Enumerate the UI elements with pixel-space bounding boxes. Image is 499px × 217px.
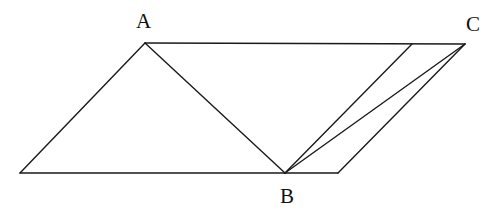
segment-a-c	[145, 43, 465, 44]
point-label-c: C	[466, 12, 480, 36]
segment-b-top-inner	[285, 44, 412, 173]
point-label-a: A	[136, 9, 152, 33]
geometry-diagram: A C B	[0, 0, 499, 217]
segment-a-bottom-left	[20, 43, 145, 173]
segment-a-b	[145, 43, 285, 173]
point-label-b: B	[280, 184, 294, 208]
labels-group: A C B	[136, 9, 480, 208]
diagram-svg: A C B	[0, 0, 499, 217]
segments-group	[20, 43, 465, 173]
segment-bottom-right-c	[338, 44, 465, 173]
segment-b-c	[285, 44, 465, 173]
